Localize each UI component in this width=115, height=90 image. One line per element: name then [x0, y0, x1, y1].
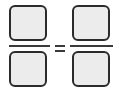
left-numerator-box[interactable]: [9, 5, 47, 41]
right-denominator-box[interactable]: [72, 51, 110, 87]
left-fraction-bar: [9, 45, 50, 47]
right-fraction-bar: [70, 45, 113, 47]
equals-sign-bottom-line: [55, 50, 65, 52]
left-denominator-box[interactable]: [9, 51, 47, 87]
right-numerator-box[interactable]: [72, 5, 110, 41]
equals-sign-top-line: [55, 45, 65, 47]
